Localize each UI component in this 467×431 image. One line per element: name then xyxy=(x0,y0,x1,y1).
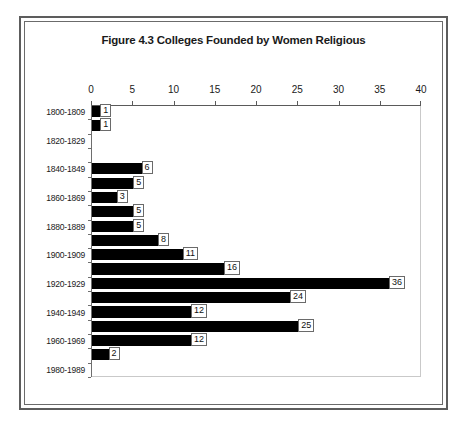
y-axis-category-label: 1900-1909 xyxy=(46,250,85,260)
bar-value-label: 6 xyxy=(142,161,153,174)
bar[interactable] xyxy=(92,178,133,189)
x-axis-tick-label: 40 xyxy=(415,84,426,95)
bar[interactable] xyxy=(92,235,158,246)
bar-row[interactable]: 8 xyxy=(91,234,421,248)
category-tick-mark xyxy=(88,377,91,378)
bar-value-label: 16 xyxy=(224,261,240,274)
bar[interactable] xyxy=(92,306,191,317)
bar-row[interactable]: 3 xyxy=(91,191,421,205)
bar-row[interactable]: 6 xyxy=(91,162,421,176)
y-axis-category-label: 1920-1929 xyxy=(46,279,85,289)
y-axis-category-label: 1840-1849 xyxy=(46,164,85,174)
bar[interactable] xyxy=(92,349,109,360)
bar[interactable] xyxy=(92,163,142,174)
y-axis-category-label: 1800-1809 xyxy=(46,107,85,117)
bar-value-label: 2 xyxy=(109,347,120,360)
y-axis-category-label: 1880-1889 xyxy=(46,222,85,232)
x-axis-tick-label: 10 xyxy=(168,84,179,95)
bar-row[interactable]: 36 xyxy=(91,277,421,291)
bar-value-label: 11 xyxy=(183,247,198,260)
bar-value-label: 1 xyxy=(100,118,111,131)
bar-row[interactable]: 11 xyxy=(91,248,421,262)
y-axis-category-label: 1960-1969 xyxy=(46,336,85,346)
bar-row[interactable]: 12 xyxy=(91,334,421,348)
x-axis-tick-label: 35 xyxy=(374,84,385,95)
y-axis-category-label: 1940-1949 xyxy=(46,308,85,318)
bar-value-label: 24 xyxy=(290,290,306,303)
bar-value-label: 12 xyxy=(191,333,207,346)
figure-frame-inner: Figure 4.3 Colleges Founded by Women Rel… xyxy=(24,21,443,405)
bar[interactable] xyxy=(92,321,298,332)
y-axis-category-label: 1980-1989 xyxy=(46,365,85,375)
bar-row[interactable] xyxy=(91,363,421,377)
x-axis-tick-label: 5 xyxy=(129,84,135,95)
x-axis-tick-label: 0 xyxy=(88,84,94,95)
plot-area: 11653558111636241225122 xyxy=(91,105,421,377)
y-axis-category-label: 1820-1829 xyxy=(46,136,85,146)
bar-row[interactable]: 16 xyxy=(91,262,421,276)
bar-value-label: 8 xyxy=(158,233,169,246)
bar[interactable] xyxy=(92,263,224,274)
bar-row[interactable]: 12 xyxy=(91,305,421,319)
bar-row[interactable] xyxy=(91,134,421,148)
chart-title: Figure 4.3 Colleges Founded by Women Rel… xyxy=(25,34,442,46)
y-axis-category-label: 1860-1869 xyxy=(46,193,85,203)
bar-row[interactable]: 5 xyxy=(91,177,421,191)
bar[interactable] xyxy=(92,120,100,131)
bar-value-label: 36 xyxy=(389,276,405,289)
bar-row[interactable]: 5 xyxy=(91,220,421,234)
bar-value-label: 5 xyxy=(133,176,144,189)
bar-row[interactable]: 25 xyxy=(91,320,421,334)
x-axis-tick-labels: 0510152025303540 xyxy=(91,84,421,100)
bar[interactable] xyxy=(92,335,191,346)
figure-frame: Figure 4.3 Colleges Founded by Women Rel… xyxy=(19,16,448,410)
bar-value-label: 25 xyxy=(298,319,314,332)
bar-value-label: 12 xyxy=(191,304,207,317)
bar-value-label: 5 xyxy=(133,204,144,217)
bar-row[interactable]: 1 xyxy=(91,105,421,119)
bar[interactable] xyxy=(92,192,117,203)
bar[interactable] xyxy=(92,292,290,303)
bar-row[interactable]: 1 xyxy=(91,119,421,133)
x-axis-tick-label: 30 xyxy=(333,84,344,95)
y-axis-category-labels: 1800-18091820-18291840-18491860-18691880… xyxy=(25,105,89,377)
bar-row[interactable]: 2 xyxy=(91,348,421,362)
chart-canvas: Figure 4.3 Colleges Founded by Women Rel… xyxy=(25,22,442,404)
x-axis-tick-label: 25 xyxy=(292,84,303,95)
x-axis-tick-label: 15 xyxy=(209,84,220,95)
bar[interactable] xyxy=(92,249,183,260)
bar[interactable] xyxy=(92,221,133,232)
bar-value-label: 1 xyxy=(100,104,111,117)
bar-row[interactable]: 24 xyxy=(91,291,421,305)
bar[interactable] xyxy=(92,106,100,117)
bar-row[interactable]: 5 xyxy=(91,205,421,219)
bar[interactable] xyxy=(92,278,389,289)
bar-value-label: 3 xyxy=(117,190,128,203)
bar[interactable] xyxy=(92,206,133,217)
bar-row[interactable] xyxy=(91,148,421,162)
bar-value-label: 5 xyxy=(133,219,144,232)
x-axis-tick-label: 20 xyxy=(250,84,261,95)
